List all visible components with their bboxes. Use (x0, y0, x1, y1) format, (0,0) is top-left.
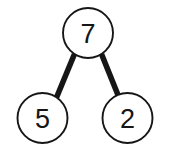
tree-edge-group (57, 54, 120, 98)
edge-root-to-left-child (57, 54, 75, 98)
node-label-right-child: 2 (120, 104, 135, 134)
tree-node-root[interactable]: 7 (63, 8, 113, 58)
edge-root-to-right-child (102, 54, 120, 98)
tree-node-right-child[interactable]: 2 (103, 93, 153, 143)
binary-tree-graphic: 7 5 2 (0, 0, 170, 157)
node-label-root: 7 (80, 19, 95, 49)
node-label-left-child: 5 (35, 104, 50, 134)
tree-diagram-canvas: 7 5 2 (0, 0, 170, 157)
tree-node-left-child[interactable]: 5 (18, 93, 68, 143)
